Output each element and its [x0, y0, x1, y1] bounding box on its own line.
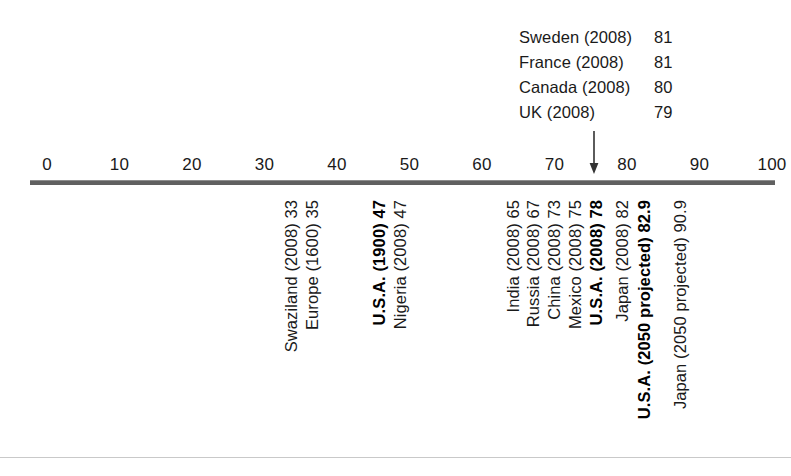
callout-label: Sweden (2008) — [519, 28, 654, 47]
data-point-label: Japan (2008) 82 — [614, 200, 631, 322]
axis-tick-label: 20 — [182, 155, 201, 175]
bottom-divider — [0, 457, 791, 458]
callout-value: 79 — [654, 103, 673, 122]
axis-tick-label: 50 — [400, 155, 419, 175]
chart-page: Sweden (2008) 81 France (2008) 81 Canada… — [0, 0, 791, 476]
axis-tick-label: 0 — [42, 155, 52, 175]
data-point-label: Russia (2008) 67 — [525, 200, 542, 327]
data-point-label: Swaziland (2008) 33 — [283, 200, 300, 352]
axis-line — [30, 180, 775, 185]
down-arrow-icon — [589, 131, 599, 174]
data-point-label: U.S.A. (2050 projected) 82.9 — [636, 200, 653, 419]
axis-tick-label: 40 — [327, 155, 346, 175]
callout-value: 81 — [654, 28, 673, 47]
axis-tick-label: 90 — [690, 155, 709, 175]
data-point-label: Mexico (2008) 75 — [567, 200, 584, 329]
axis-tick-label: 80 — [617, 155, 636, 175]
callout-value: 81 — [654, 53, 673, 72]
data-point-label: China (2008) 73 — [546, 200, 563, 320]
callout-label: Canada (2008) — [519, 78, 654, 97]
callout-list: Sweden (2008) 81 France (2008) 81 Canada… — [519, 28, 729, 128]
callout-label: France (2008) — [519, 53, 654, 72]
callout-row: Sweden (2008) 81 — [519, 28, 729, 53]
data-point-label: Nigeria (2008) 47 — [392, 200, 409, 329]
data-point-label: Japan (2050 projected) 90.9 — [672, 200, 689, 409]
callout-value: 80 — [654, 78, 673, 97]
callout-row: UK (2008) 79 — [519, 103, 729, 128]
callout-row: France (2008) 81 — [519, 53, 729, 78]
data-point-label: India (2008) 65 — [505, 200, 522, 313]
callout-label: UK (2008) — [519, 103, 654, 122]
axis-tick-label: 100 — [758, 155, 787, 175]
data-point-label: U.S.A. (2008) 78 — [588, 200, 605, 325]
data-point-label: U.S.A. (1900) 47 — [371, 200, 388, 325]
axis-tick-label: 30 — [255, 155, 274, 175]
axis-tick-label: 70 — [545, 155, 564, 175]
axis-tick-label: 10 — [110, 155, 129, 175]
callout-row: Canada (2008) 80 — [519, 78, 729, 103]
data-point-label: Europe (1600) 35 — [304, 200, 321, 330]
axis-tick-label: 60 — [472, 155, 491, 175]
